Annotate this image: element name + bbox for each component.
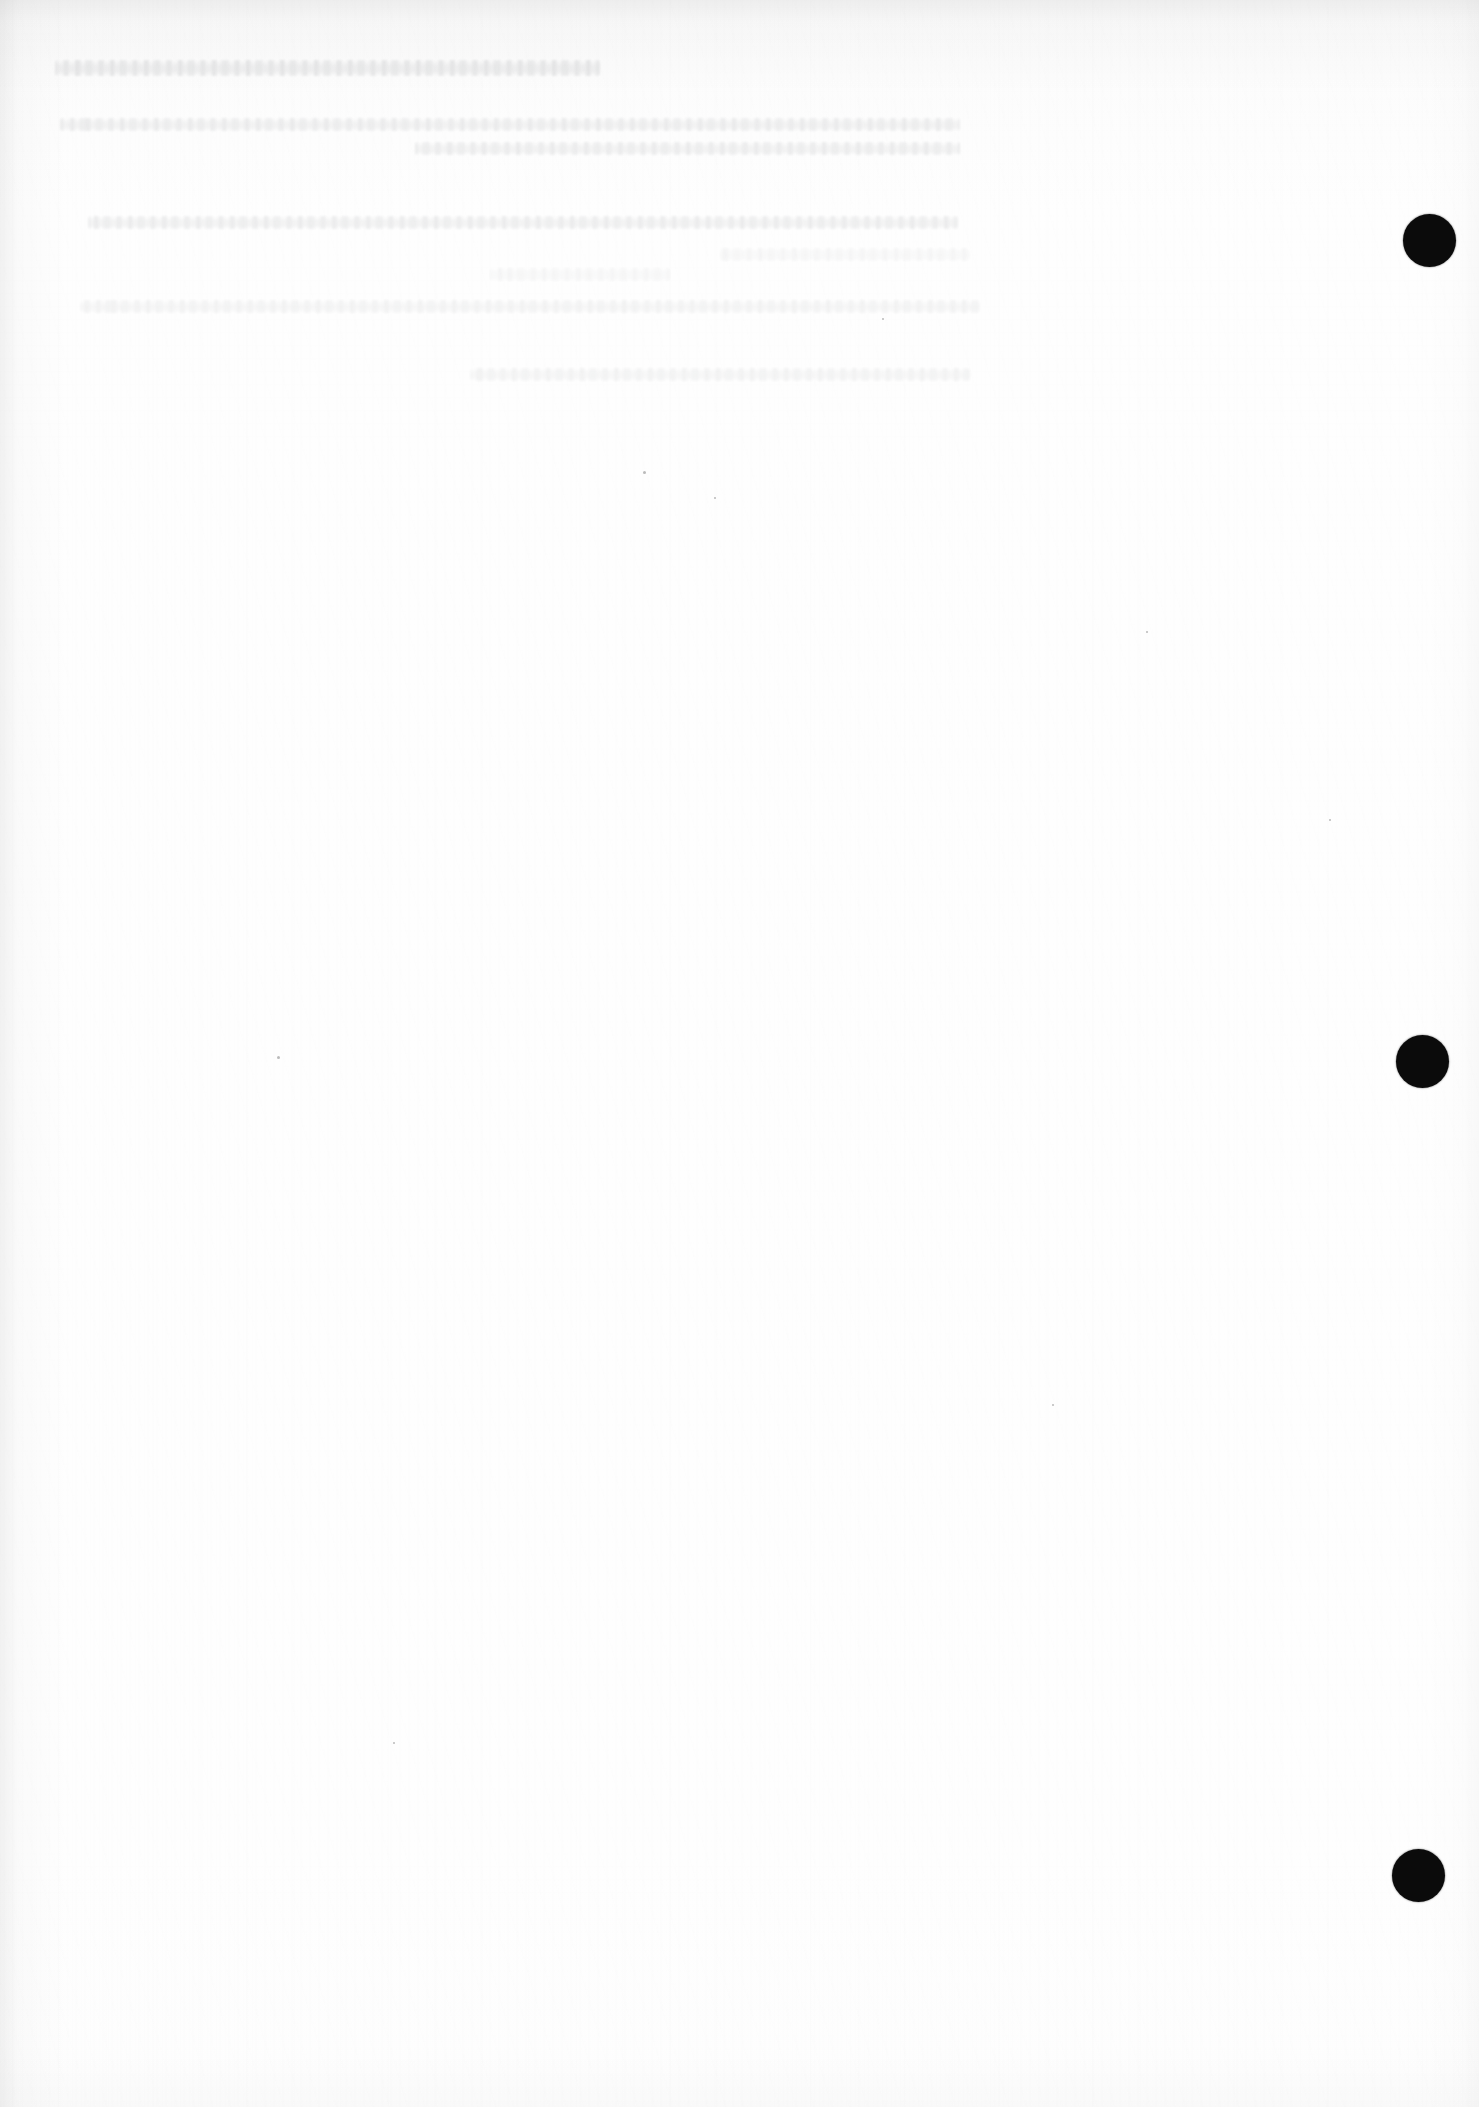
scanned-page: Bleed-through from reverse side; no char… (0, 0, 1479, 2107)
scan-speck (1146, 631, 1148, 633)
scan-speck (393, 1742, 395, 1744)
punch-mark-top (1403, 214, 1456, 267)
punch-mark-bottom (1392, 1849, 1445, 1902)
scan-speck (714, 497, 716, 499)
scan-speck (277, 1056, 280, 1059)
paper-background (0, 0, 1479, 2107)
scan-speck (882, 318, 884, 320)
scan-speck (1329, 819, 1331, 821)
scan-speck (1052, 1404, 1054, 1406)
scan-speck (643, 471, 646, 474)
punch-mark-middle (1396, 1035, 1449, 1088)
